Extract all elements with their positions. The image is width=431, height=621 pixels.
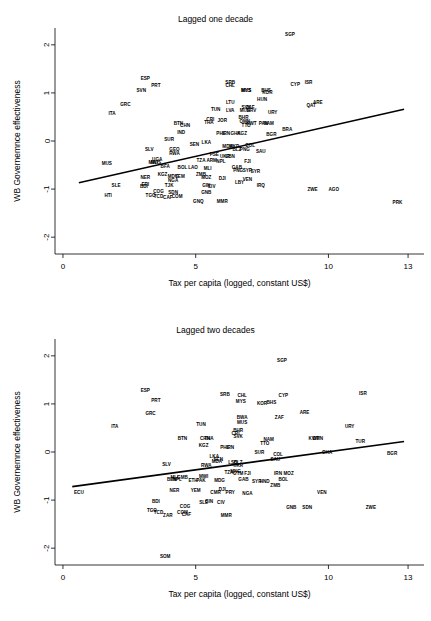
data-point-label: COG — [180, 504, 191, 509]
data-point-label: CAF — [182, 512, 192, 517]
figure-page: Lagged one decade -2-1012051013Tax per c… — [0, 0, 431, 621]
data-point-label: LAO — [188, 165, 198, 170]
svg-text:0: 0 — [61, 573, 66, 582]
data-point-label: BOL — [278, 477, 288, 482]
data-point-label: SVK — [233, 434, 243, 439]
svg-text:1: 1 — [43, 401, 52, 406]
data-point-label: BGR — [387, 451, 398, 456]
svg-text:WB Governemnce effectiveness: WB Governemnce effectiveness — [12, 391, 22, 512]
data-point-label: BRA — [282, 127, 293, 132]
data-point-label: GTM — [233, 471, 243, 476]
data-point-label: CYP — [291, 82, 300, 87]
data-point-label: KGZ — [237, 131, 247, 136]
data-point-label: ISR — [359, 391, 367, 396]
svg-text:10: 10 — [324, 573, 333, 582]
data-point-label: IND — [177, 130, 186, 135]
data-point-label: JOR — [218, 118, 228, 123]
data-point-label: UKR — [233, 463, 244, 468]
svg-text:13: 13 — [404, 262, 413, 271]
data-point-label: TUR — [356, 439, 366, 444]
data-point-label: ESP — [141, 388, 150, 393]
data-point-label: ZWE — [366, 505, 376, 510]
data-point-label: HRV — [247, 108, 258, 113]
data-point-label: PNG — [240, 147, 250, 152]
data-point-label: GNB — [201, 190, 212, 195]
data-point-label: SOM — [160, 554, 171, 559]
data-point-label: MUS — [102, 161, 112, 166]
data-point-label: MYS — [236, 399, 246, 404]
svg-text:13: 13 — [404, 573, 413, 582]
data-point-label: SGP — [285, 32, 295, 37]
data-point-label: PAK — [196, 478, 206, 483]
data-point-label: SEN — [190, 142, 200, 147]
data-point-label: BDI — [140, 184, 148, 189]
data-point-label: BDI — [152, 499, 160, 504]
svg-text:2: 2 — [43, 42, 52, 47]
data-point-label: SLV — [162, 462, 172, 467]
data-point-label: URY — [268, 110, 278, 115]
data-point-label: PRT — [151, 83, 160, 88]
data-point-label: TJK — [165, 183, 174, 188]
data-point-label: PRY — [226, 490, 235, 495]
data-point-label: GNQ — [193, 199, 204, 204]
data-point-label: MUS — [241, 88, 251, 93]
data-point-label: SGP — [277, 358, 287, 363]
data-point-label: KGZ — [199, 443, 209, 448]
data-point-label: BTN — [178, 436, 188, 441]
data-point-label: ITA — [109, 111, 117, 116]
data-point-label: GAB — [238, 477, 249, 482]
data-point-label: MUS — [151, 160, 161, 165]
svg-text:Tax per capita (logged, consta: Tax per capita (logged, constant US$) — [168, 589, 310, 599]
data-point-label: ZAF — [275, 415, 284, 420]
data-point-label: MMR — [221, 513, 233, 518]
svg-text:1: 1 — [43, 90, 52, 95]
data-point-label: CHL — [225, 83, 235, 88]
plot-area-two-decades: -2-1012051013Tax per capita (logged, con… — [0, 333, 431, 621]
svg-text:5: 5 — [193, 262, 198, 271]
svg-text:10: 10 — [324, 262, 333, 271]
svg-text:-2: -2 — [43, 233, 52, 241]
data-point-label: MDA — [212, 459, 223, 464]
data-point-label: VEN — [243, 177, 253, 182]
scatter-svg: -2-1012051013Tax per capita (logged, con… — [0, 22, 431, 310]
scatter-svg: -2-1012051013Tax per capita (logged, con… — [0, 333, 431, 621]
data-point-label: RWA — [201, 463, 212, 468]
data-point-label: LVA — [226, 108, 235, 113]
data-point-label: CYP — [279, 393, 288, 398]
data-point-label: GIN — [205, 499, 214, 504]
data-point-label: ZWE — [307, 187, 317, 192]
data-point-label: BFA — [161, 164, 171, 169]
data-point-label: OMN — [312, 436, 323, 441]
data-point-label: HUN — [257, 97, 268, 102]
data-point-label: NAM — [263, 121, 274, 126]
data-point-label: KGZ — [158, 172, 168, 177]
data-point-label: FJI — [244, 471, 251, 476]
data-point-label: IRN — [274, 471, 283, 476]
data-point-label: KWT — [246, 121, 257, 126]
data-point-label: MOZ — [201, 175, 211, 180]
data-point-label: SLV — [145, 147, 155, 152]
svg-text:0: 0 — [61, 262, 66, 271]
data-point-label: ITA — [111, 424, 119, 429]
data-point-label: NER — [170, 488, 180, 493]
data-point-label: THA — [204, 120, 214, 125]
data-point-label: GRC — [145, 411, 156, 416]
data-point-label: CHL — [237, 393, 247, 398]
svg-text:0: 0 — [43, 138, 52, 143]
plot-area-one-decade: -2-1012051013Tax per capita (logged, con… — [0, 22, 431, 310]
data-point-label: TTO — [260, 441, 270, 446]
svg-text:-1: -1 — [43, 496, 52, 504]
data-point-label: LKA — [202, 140, 212, 145]
data-point-label: GHA — [322, 450, 333, 455]
data-point-label: BOL — [178, 165, 188, 170]
svg-text:WB Governemnce effectiveness: WB Governemnce effectiveness — [12, 80, 22, 201]
data-point-label: HND — [260, 479, 271, 484]
data-point-label: QAT — [306, 103, 316, 108]
data-point-label: NER — [140, 175, 150, 180]
data-point-label: VEN — [317, 490, 327, 495]
data-point-label: CIV — [217, 500, 226, 505]
data-point-label: BGR — [266, 132, 277, 137]
data-point-label: AGO — [329, 187, 340, 192]
data-point-label: SUR — [255, 450, 265, 455]
svg-text:-1: -1 — [43, 185, 52, 193]
